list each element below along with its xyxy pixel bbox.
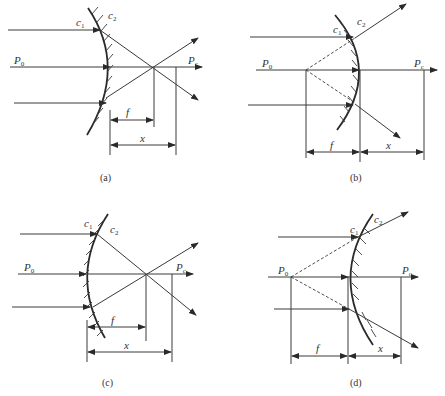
label-p0: P0 bbox=[23, 261, 35, 275]
label-c1: c1 bbox=[333, 23, 342, 37]
label-pc: Pc bbox=[187, 54, 198, 68]
caption-c: (c) bbox=[102, 377, 113, 389]
reflected-ray-2 bbox=[349, 309, 418, 348]
label-f: f bbox=[111, 314, 116, 326]
label-f: f bbox=[316, 342, 321, 354]
virtual-ray-2 bbox=[306, 70, 355, 103]
virtual-ray-1 bbox=[306, 38, 355, 70]
label-f: f bbox=[126, 106, 131, 118]
caption-a: (a) bbox=[100, 172, 111, 184]
mirror-focus-diagram: c1 c2 P0 Pc f x (a) bbox=[0, 0, 445, 396]
label-c2: c2 bbox=[108, 9, 117, 23]
mirror-hatching bbox=[339, 21, 358, 122]
label-c1: c1 bbox=[84, 217, 93, 231]
label-x: x bbox=[377, 342, 383, 354]
concave-mirror bbox=[87, 214, 108, 338]
panel-c: c1 c2 P0 Pc f x (c) bbox=[12, 214, 198, 389]
panel-b: c1 c2 P0 Pc f x (b) bbox=[248, 4, 437, 184]
reflected-ray-2 bbox=[106, 38, 198, 98]
label-c1: c1 bbox=[350, 223, 359, 237]
mirror-hatching bbox=[352, 228, 376, 337]
panel-a: c1 c2 P0 Pc f x (a) bbox=[8, 7, 202, 184]
mirror-hatching bbox=[92, 7, 113, 124]
label-c1: c1 bbox=[76, 16, 85, 30]
label-c2: c2 bbox=[110, 223, 119, 237]
panel-d: c1 c2 P0 Pc f x (d) bbox=[268, 212, 418, 389]
label-pc: Pc bbox=[401, 264, 412, 278]
label-p0: P0 bbox=[277, 264, 289, 278]
caption-b: (b) bbox=[350, 172, 362, 184]
label-c2: c2 bbox=[357, 15, 366, 29]
label-x: x bbox=[385, 139, 391, 151]
label-c2: c2 bbox=[374, 213, 383, 227]
reflected-ray-2 bbox=[355, 104, 400, 138]
label-p0: P0 bbox=[261, 57, 273, 71]
label-x: x bbox=[139, 132, 145, 144]
label-pc: Pc bbox=[413, 57, 424, 71]
label-x: x bbox=[123, 339, 129, 351]
label-p0: P0 bbox=[13, 54, 25, 68]
reflected-ray-1 bbox=[100, 30, 198, 100]
caption-d: (d) bbox=[350, 377, 362, 389]
label-pc: Pc bbox=[175, 261, 186, 275]
virtual-ray-1 bbox=[291, 237, 358, 277]
virtual-ray-2 bbox=[291, 277, 349, 309]
label-f: f bbox=[330, 139, 335, 151]
